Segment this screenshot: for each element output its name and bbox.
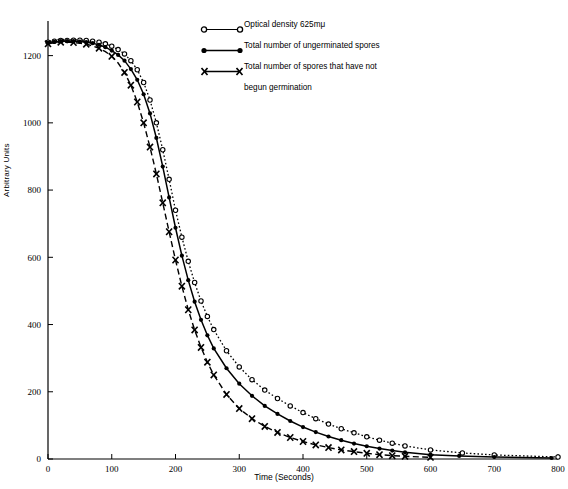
data-point [154, 136, 158, 140]
legend-item-ungerminated-spores: Total number of ungerminated spores [200, 41, 380, 53]
data-point [180, 235, 184, 239]
data-point [154, 121, 158, 125]
data-point [142, 92, 146, 96]
data-point [224, 349, 228, 353]
data-point [263, 388, 267, 392]
data-point [314, 416, 318, 420]
data-point [365, 444, 369, 448]
data-point [212, 346, 216, 350]
data-point [326, 434, 330, 438]
data-point [428, 448, 432, 452]
data-point [352, 441, 356, 445]
y-tick-label: 1000 [23, 118, 42, 128]
data-point [365, 435, 369, 439]
legend-label-not-begun-germination-line2: begun germination [244, 83, 380, 94]
data-point [91, 41, 95, 45]
data-point [180, 254, 184, 258]
data-point [135, 68, 139, 72]
data-point [250, 394, 254, 398]
data-point [167, 177, 171, 181]
data-point [237, 382, 241, 386]
data-point [403, 444, 407, 448]
data-point [212, 327, 216, 331]
data-point [186, 278, 190, 282]
data-point [192, 280, 196, 284]
data-point [198, 344, 204, 350]
data-point [173, 208, 177, 212]
data-point [186, 259, 190, 263]
legend-label-optical-density: Optical density 625mμ [244, 20, 325, 31]
data-point [122, 52, 126, 56]
data-point [110, 44, 114, 48]
y-tick-label: 600 [28, 253, 42, 263]
data-point [161, 148, 165, 152]
data-point [275, 412, 279, 416]
legend-label-not-begun-germination: Total number of spores that have not [244, 62, 377, 73]
data-point [141, 80, 145, 84]
data-point [199, 318, 203, 322]
data-point [288, 419, 292, 423]
data-point [224, 366, 228, 370]
data-point [129, 67, 133, 71]
data-point [377, 438, 381, 442]
data-point [457, 454, 461, 458]
data-point [236, 405, 242, 411]
x-marker-icon [200, 63, 244, 74]
series-line [48, 40, 558, 457]
data-point [288, 404, 292, 408]
filled-circle-marker-icon [200, 42, 244, 53]
data-point [390, 441, 394, 445]
data-point [110, 48, 114, 52]
data-point [135, 78, 139, 82]
data-point [275, 429, 281, 435]
data-point [167, 195, 171, 199]
data-point [211, 372, 217, 378]
series-line [48, 41, 552, 458]
series-2 [45, 39, 434, 461]
y-axis-title: Arbitrary Units [2, 97, 11, 197]
data-point [339, 427, 343, 431]
data-point [224, 391, 230, 397]
data-point [249, 415, 255, 421]
data-point [116, 53, 120, 57]
data-point [377, 446, 381, 450]
data-point [134, 99, 140, 105]
data-point [204, 359, 210, 365]
chart-container: 0200400600800100012000100200300400500600… [0, 0, 568, 489]
series-line [48, 42, 431, 457]
data-point [390, 448, 394, 452]
data-point [116, 47, 120, 51]
data-point [263, 404, 267, 408]
data-point [109, 53, 115, 59]
data-point [129, 58, 133, 62]
legend-label-ungerminated-spores: Total number of ungerminated spores [244, 41, 380, 52]
y-tick-label: 0 [37, 454, 42, 464]
data-point [122, 69, 128, 75]
legend-item-optical-density: Optical density 625mμ [200, 20, 380, 32]
data-point [262, 423, 268, 429]
data-point [148, 98, 152, 102]
series-1 [46, 39, 554, 460]
legend-item-not-begun-germination: Total number of spores that have not beg… [200, 62, 380, 94]
data-point [460, 451, 464, 455]
data-point [237, 365, 241, 369]
x-axis-title: Time (Seconds) [0, 472, 568, 482]
data-point [326, 422, 330, 426]
data-point [161, 164, 165, 168]
data-point [301, 410, 305, 414]
data-point [352, 431, 356, 435]
y-tick-label: 400 [28, 320, 42, 330]
data-point [492, 455, 496, 459]
data-point [250, 377, 254, 381]
data-point [199, 299, 203, 303]
data-point [103, 45, 107, 49]
data-point [205, 333, 209, 337]
data-point [148, 111, 152, 115]
chart-legend: Optical density 625mμ Total number of un… [200, 20, 380, 94]
data-point [128, 82, 134, 88]
open-circle-marker-icon [200, 21, 244, 32]
series-0 [46, 38, 560, 459]
y-tick-label: 1200 [23, 51, 42, 61]
data-point [339, 438, 343, 442]
y-tick-label: 200 [28, 387, 42, 397]
